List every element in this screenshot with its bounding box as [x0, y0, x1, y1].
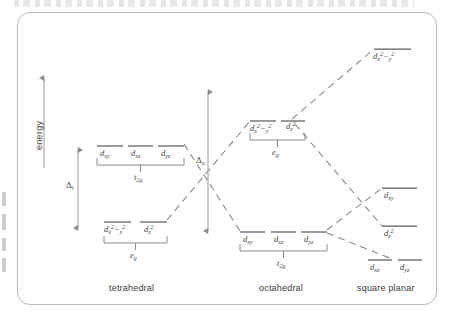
octahedral-braces	[240, 133, 327, 258]
orbital-label-oct-dz2: dz2	[286, 121, 296, 132]
geometry-label-octahedral: octahedral	[259, 283, 303, 293]
orbital-label-oct-dyz: dyz	[304, 234, 313, 245]
geometry-label-square-planar: square planar	[357, 283, 415, 293]
orbital-label-sp-dxz: dxz	[370, 262, 379, 273]
tetrahedral-levels	[97, 146, 184, 222]
orbital-label-sp-dz2: dz2	[384, 228, 394, 239]
term-label-tet-eg: eg	[130, 250, 137, 261]
octahedral-levels	[240, 121, 327, 232]
energy-axis-label: energy	[34, 121, 44, 150]
orbital-label-oct-dxy: dxy	[243, 234, 253, 245]
orbital-label-tet-dxy: dxy	[100, 148, 110, 159]
delta-t-label: Δt	[66, 180, 74, 191]
orbital-label-tet-dx2y2: dx2−y2	[104, 224, 125, 235]
geometry-label-tetrahedral: tetrahedral	[109, 283, 154, 293]
orbital-label-oct-dx2y2: dx2−y2	[250, 123, 271, 134]
square-planar-levels	[368, 49, 422, 260]
orbital-label-sp-dx2y2: dx2−y2	[373, 51, 394, 62]
figure-canvas: energy Δt Δo dxy dxz dyz t2g dx2−y2 dz2 …	[0, 0, 456, 321]
orbital-label-tet-dz2: dz2	[144, 224, 154, 235]
corr-line-t2g-to-dxy	[327, 188, 382, 230]
corr-line-eg-to-dx2y2	[292, 49, 374, 119]
corr-line-eg-to-dz2	[295, 124, 382, 226]
delta-t-subscript: t	[72, 184, 74, 191]
term-label-oct-eg: eg	[272, 147, 279, 158]
delta-o-subscript: o	[202, 159, 205, 166]
orbital-label-oct-dxz: dxz	[274, 234, 283, 245]
term-label-tet-t2g: t2g	[134, 172, 142, 183]
orbital-label-tet-dxz: dxz	[131, 148, 140, 159]
orbital-label-tet-dyz: dyz	[161, 148, 170, 159]
term-label-oct-t2g: t2g	[277, 258, 285, 269]
delta-o-label: Δo	[196, 155, 205, 166]
orbital-diagram-svg	[0, 0, 456, 321]
corr-line-t2g-to-dxz-dyz	[327, 233, 392, 259]
correlation-lines-oct-sp	[292, 49, 392, 259]
orbital-label-sp-dyz: dyz	[400, 262, 409, 273]
orbital-label-sp-dxy: dxy	[384, 190, 394, 201]
corr-line-t2g-to-t2g	[184, 144, 240, 231]
